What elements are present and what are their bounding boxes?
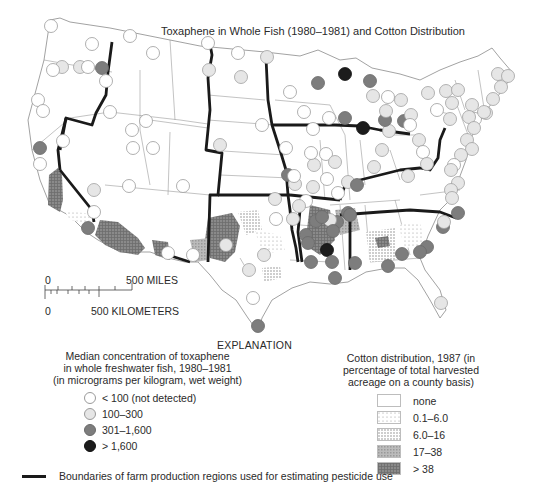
legend-label: 301–1,600 <box>102 424 152 436</box>
site-100-300 <box>287 213 300 226</box>
site-not-detected <box>57 135 70 148</box>
cotton-distribution-legend: Cotton distribution, 1987 (in percentage… <box>335 352 487 477</box>
site-100-300 <box>421 158 434 171</box>
site-not-detected <box>45 20 58 33</box>
cotton-area <box>262 266 282 282</box>
site-301-1600 <box>382 260 395 273</box>
site-100-300 <box>395 94 408 107</box>
site-not-detected <box>140 115 153 128</box>
site-not-detected <box>431 104 444 117</box>
fish-concentration-legend: Median concentration of toxaphene in who… <box>40 350 255 454</box>
site-100-300 <box>203 64 216 77</box>
circle-icon-medium <box>84 424 96 436</box>
site-over-1600 <box>321 244 334 257</box>
site-not-detected <box>256 119 269 132</box>
cotton-legend-item: 6.0–16 <box>377 426 487 443</box>
site-not-detected <box>187 249 200 262</box>
site-not-detected <box>417 146 430 159</box>
site-not-detected <box>100 75 113 88</box>
site-100-300 <box>413 134 426 147</box>
boundary-legend: Boundaries of farm production regions us… <box>22 470 393 482</box>
cotton-legend-item: 17–38 <box>377 443 487 460</box>
swatch-sparse-dots-icon <box>377 411 401 424</box>
site-100-300 <box>440 85 453 98</box>
site-100-300 <box>368 161 381 174</box>
site-100-300 <box>495 81 508 94</box>
site-100-300 <box>258 249 271 262</box>
site-not-detected <box>270 213 283 226</box>
site-not-detected <box>284 86 297 99</box>
fish-legend-item: > 1,600 <box>84 438 255 454</box>
map-title: Toxaphene in Whole Fish (1980–1981) and … <box>161 25 465 37</box>
site-over-1600 <box>357 122 370 135</box>
site-not-detected <box>382 91 395 104</box>
site-over-1600 <box>339 68 352 81</box>
scale-km-label: 500 KILOMETERS <box>91 305 179 317</box>
site-100-300 <box>438 216 451 229</box>
legend-label: < 100 (not detected) <box>102 392 196 404</box>
site-100-300 <box>214 139 227 152</box>
scale-bar <box>45 283 132 299</box>
swatch-light-grid-icon <box>377 445 401 458</box>
site-not-detected <box>88 206 101 219</box>
site-not-detected <box>37 105 50 118</box>
cotton-distribution-layer <box>48 168 425 282</box>
fish-sampling-sites <box>32 20 515 333</box>
site-100-300 <box>487 93 500 106</box>
legend-label: 0.1–6.0 <box>413 412 448 424</box>
site-not-detected <box>123 180 136 193</box>
site-301-1600 <box>349 257 362 270</box>
site-not-detected <box>202 37 215 50</box>
site-100-300 <box>446 192 459 205</box>
cotton-legend-item: > 38 <box>377 460 487 477</box>
site-301-1600 <box>312 77 325 90</box>
site-not-detected <box>305 147 318 160</box>
site-100-300 <box>376 144 389 157</box>
site-301-1600 <box>302 237 315 250</box>
scale-miles-zero: 0 <box>45 274 51 286</box>
us-map <box>0 0 545 350</box>
circle-icon-low <box>84 408 96 420</box>
site-100-300 <box>269 193 282 206</box>
cotton-legend-heading-line: percentage of total harvested <box>335 364 487 376</box>
site-100-300 <box>235 71 248 84</box>
circle-icon-not-detected <box>84 392 96 404</box>
legend-label: 17–38 <box>413 446 442 458</box>
site-not-detected <box>298 106 311 119</box>
site-not-detected <box>147 142 160 155</box>
site-100-300 <box>435 297 448 310</box>
site-100-300 <box>402 170 415 183</box>
site-301-1600 <box>344 209 357 222</box>
fish-legend-item: 100–300 <box>84 406 255 422</box>
cotton-legend-item: 0.1–6.0 <box>377 409 487 426</box>
boundary-legend-label: Boundaries of farm production regions us… <box>59 470 393 482</box>
swatch-dense-dots-icon <box>377 428 401 441</box>
cotton-legend-heading-line: Cotton distribution, 1987 (in <box>335 352 487 364</box>
fish-legend-item: 301–1,600 <box>84 422 255 438</box>
site-301-1600 <box>339 112 352 125</box>
site-100-300 <box>308 159 321 172</box>
site-100-300 <box>329 156 342 169</box>
site-not-detected <box>321 173 334 186</box>
site-not-detected <box>162 247 175 260</box>
site-301-1600 <box>414 246 427 259</box>
scale-miles-label: 500 MILES <box>126 274 178 286</box>
legend-label: none <box>413 395 436 407</box>
fish-legend-heading-line: Median concentration of toxaphene <box>40 350 255 362</box>
site-not-detected <box>47 64 60 77</box>
site-301-1600 <box>364 75 377 88</box>
site-100-300 <box>220 239 233 252</box>
site-100-300 <box>261 51 274 64</box>
site-301-1600 <box>329 272 342 285</box>
site-not-detected <box>288 170 301 183</box>
site-301-1600 <box>252 320 265 333</box>
fish-legend-heading: Median concentration of toxaphene in who… <box>40 350 255 386</box>
swatch-none-icon <box>377 394 401 407</box>
legend-label: > 1,600 <box>102 440 137 452</box>
site-100-300 <box>307 181 320 194</box>
site-not-detected <box>124 30 137 43</box>
site-301-1600 <box>452 207 465 220</box>
site-100-300 <box>422 87 435 100</box>
site-100-300 <box>452 84 465 97</box>
site-301-1600 <box>316 211 329 224</box>
